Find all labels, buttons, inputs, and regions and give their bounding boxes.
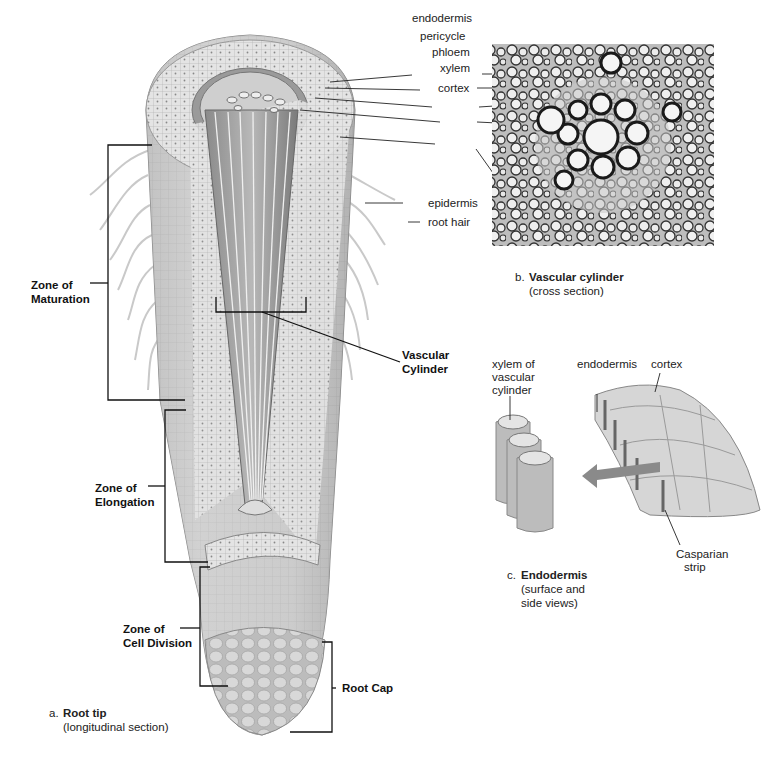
caption-a-subtitle: (longitudinal section): [49, 720, 168, 734]
label-cortex: cortex: [438, 82, 469, 95]
vascular-cylinder-line2: Cylinder: [402, 362, 449, 376]
label-pericycle: pericycle: [420, 30, 465, 43]
label-endodermis: endodermis: [412, 12, 472, 25]
illustration: [0, 0, 775, 761]
label-endodermis-c: endodermis: [577, 358, 637, 371]
caption-b-title: Vascular cylinder: [529, 271, 624, 283]
zone-maturation-line2: Maturation: [31, 292, 90, 306]
label-epidermis: epidermis: [428, 197, 478, 210]
caption-vascular-cylinder: b.Vascular cylinder (cross section): [515, 270, 624, 298]
caption-c-letter: c.: [507, 568, 521, 582]
endodermis-drawing: [496, 373, 760, 545]
label-xylem-of-vascular-cylinder: xylem of vascular cylinder: [492, 358, 535, 397]
caption-root-tip: a.Root tip (longitudinal section): [49, 706, 168, 734]
caption-a-title: Root tip: [63, 707, 106, 719]
xylem-label-line3: cylinder: [492, 384, 535, 397]
caption-c-title: Endodermis: [521, 569, 587, 581]
xylem-label-line2: vascular: [492, 371, 535, 384]
casparian-line2: strip: [676, 561, 728, 574]
xylem-label-line1: xylem of: [492, 358, 535, 371]
label-phloem: phloem: [432, 46, 470, 59]
zone-maturation-line1: Zone of: [31, 278, 90, 292]
label-cortex-c: cortex: [651, 358, 682, 371]
zone-cell-division-line1: Zone of: [123, 622, 192, 636]
label-root-cap: Root Cap: [342, 681, 393, 695]
vascular-cylinder-micrograph: [492, 44, 714, 246]
label-zone-elongation: Zone of Elongation: [95, 481, 154, 509]
vascular-cylinder-line1: Vascular: [402, 348, 449, 362]
zone-elongation-line2: Elongation: [95, 495, 154, 509]
label-xylem: xylem: [440, 62, 470, 75]
caption-endodermis: c.Endodermis (surface and side views): [507, 568, 587, 610]
label-zone-maturation: Zone of Maturation: [31, 278, 90, 306]
label-casparian-strip: Casparian strip: [676, 548, 728, 574]
caption-c-subtitle-line1: (surface and: [507, 582, 587, 596]
caption-c-subtitle-line2: side views): [507, 596, 587, 610]
caption-b-subtitle: (cross section): [515, 284, 624, 298]
zone-elongation-line1: Zone of: [95, 481, 154, 495]
caption-a-letter: a.: [49, 706, 63, 720]
caption-b-letter: b.: [515, 270, 529, 284]
label-vascular-cylinder: Vascular Cylinder: [402, 348, 449, 376]
casparian-line1: Casparian: [676, 548, 728, 561]
label-root-hair: root hair: [428, 216, 470, 229]
label-zone-cell-division: Zone of Cell Division: [123, 622, 192, 650]
zone-cell-division-line2: Cell Division: [123, 636, 192, 650]
